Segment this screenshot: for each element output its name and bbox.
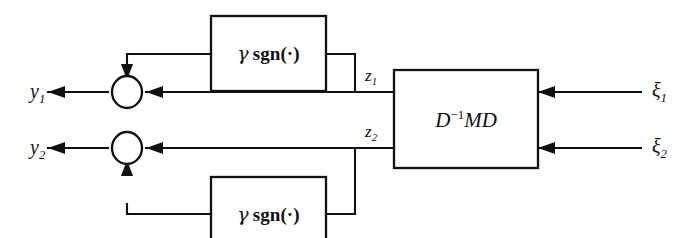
gamma-sgn-block-top-label: γsgn(·) <box>211 44 326 63</box>
gamma-symbol-top: γ <box>237 42 248 64</box>
signal-z1-label: z1 <box>365 67 377 87</box>
sgn-text-bottom: sgn(·) <box>253 204 300 225</box>
wire-gamma-bottom-to-sum2 <box>127 204 211 214</box>
gamma-symbol-bottom: γ <box>237 203 248 225</box>
summing-junction-1 <box>112 76 142 108</box>
output-y2-label: y2 <box>30 137 45 162</box>
wire-z2-tap-to-gamma-bottom <box>326 148 355 214</box>
wire-gamma-top-to-sum1 <box>127 54 211 64</box>
output-y1-label: y1 <box>30 81 45 106</box>
arrowhead-z1-into-sum1 <box>146 86 163 98</box>
plant-block-label: D−1MD <box>394 108 538 131</box>
block-diagram-figure: y1 y2 z1 z2 ξ1 ξ2 D−1MD γsgn(·) γsgn(·) <box>0 0 686 238</box>
input-xi2-label: ξ2 <box>652 136 667 161</box>
arrowhead-z2-into-sum2 <box>146 142 163 154</box>
diagram-canvas <box>0 0 686 238</box>
arrowhead-xi2-into-plant <box>538 142 555 154</box>
arrowhead-xi1-into-plant <box>538 86 555 98</box>
summing-junction-2 <box>112 132 142 164</box>
arrowhead-y1-output <box>48 86 65 98</box>
arrowhead-y2-output <box>48 142 65 154</box>
gamma-sgn-block-bottom-label: γsgn(·) <box>211 205 326 224</box>
sgn-text-top: sgn(·) <box>253 43 300 64</box>
wire-z1-tap-to-gamma-top <box>326 54 355 92</box>
signal-z2-label: z2 <box>365 123 377 143</box>
input-xi1-label: ξ1 <box>652 80 667 105</box>
